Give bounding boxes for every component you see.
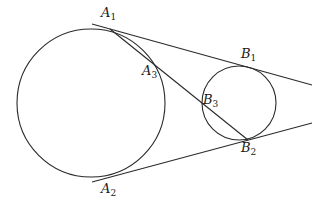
label-a2: A2: [101, 182, 116, 198]
geometry-figure: [0, 0, 328, 205]
label-a3: A3: [142, 64, 157, 80]
large-circle: [17, 29, 165, 177]
diagram-canvas: A1 A3 B1 B3 B2 A2: [0, 0, 328, 205]
chord-a1-b2-line: [110, 29, 248, 140]
label-b3: B3: [203, 93, 218, 109]
label-b1: B1: [241, 47, 256, 63]
label-b2: B2: [241, 141, 256, 157]
label-a1: A1: [101, 6, 116, 22]
lower-tangent-line: [92, 123, 312, 182]
upper-tangent-line: [92, 24, 312, 85]
